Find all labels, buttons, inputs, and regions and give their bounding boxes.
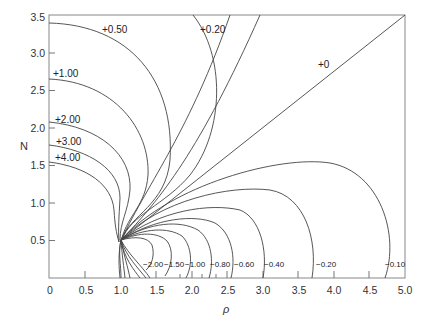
y-axis-title: N xyxy=(20,140,28,152)
x-tick-label: 1.5 xyxy=(150,284,165,296)
y-tick-label: 2.5 xyxy=(30,84,45,96)
x-tick-label: 2.5 xyxy=(221,284,236,296)
y-tick-label: 0.5 xyxy=(30,234,45,246)
y-tick-labels: 0.5 1.0 1.5 2.0 2.5 3.0 3.5 xyxy=(30,11,45,246)
curve-labels: +0.50 +0.20 +1.00 +2.00 +3.00 +4.00 +0 xyxy=(53,24,330,163)
y-tick-label: 1.5 xyxy=(30,159,45,171)
label-m010: −0.10 xyxy=(385,260,406,269)
x-tick-label: 4.0 xyxy=(327,284,342,296)
x-ticks xyxy=(85,271,369,278)
label-m200: −2.00 xyxy=(143,260,164,269)
y-tick-label: 3.0 xyxy=(30,47,45,59)
y-tick-label: 2.0 xyxy=(30,122,45,134)
label-p100: +1.00 xyxy=(53,68,79,79)
label-m080: −0.80 xyxy=(210,260,231,269)
label-m040: −0.40 xyxy=(264,260,285,269)
chart: 0.5 1.0 1.5 2.0 2.5 3.0 3.5 0 0.5 1.0 1.… xyxy=(0,0,427,326)
negative-curve-labels: −2.00 −1.50 −1.00 −0.80 −0.60 −0.40 −0.2… xyxy=(143,260,406,269)
x-tick-label: 5.0 xyxy=(398,284,413,296)
label-m150: −1.50 xyxy=(164,260,185,269)
label-m060: −0.60 xyxy=(234,260,255,269)
label-p300: +3.00 xyxy=(56,136,82,147)
label-p020: +0.20 xyxy=(200,24,226,35)
label-m020: −0.20 xyxy=(316,260,337,269)
x-tick-labels: 0 0.5 1.0 1.5 2.0 2.5 3.0 3.5 4.0 4.5 5.… xyxy=(47,284,412,296)
y-tick-label: 1.0 xyxy=(30,197,45,209)
x-axis-title: ρ xyxy=(222,303,229,315)
label-p050: +0.50 xyxy=(102,24,128,35)
positive-curves xyxy=(49,15,405,278)
x-tick-label: 2.0 xyxy=(185,284,200,296)
x-tick-label: 3.5 xyxy=(292,284,307,296)
x-tick-label: 1.0 xyxy=(114,284,129,296)
y-tick-label: 3.5 xyxy=(30,11,45,23)
x-tick-label: 0.5 xyxy=(79,284,94,296)
x-tick-label: 3.0 xyxy=(256,284,271,296)
x-tick-label: 0 xyxy=(47,284,53,296)
label-m100: −1.00 xyxy=(185,260,206,269)
plot-frame xyxy=(49,15,405,278)
x-tick-label: 4.5 xyxy=(363,284,378,296)
label-p0: +0 xyxy=(318,59,330,70)
label-p200: +2.00 xyxy=(55,114,81,125)
label-p400: +4.00 xyxy=(55,152,81,163)
y-ticks xyxy=(49,53,55,241)
